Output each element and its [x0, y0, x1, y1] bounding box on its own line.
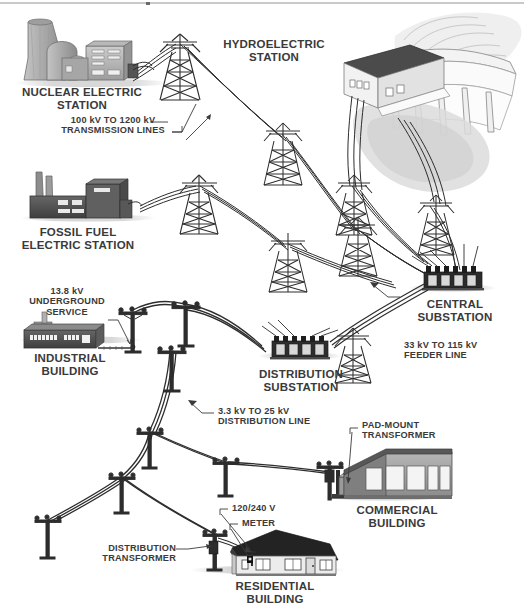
label-transmission-lines: 100 kV TO 1200 kV TRANSMISSION LINES: [52, 115, 174, 136]
label-pad-mount-transformer: PAD-MOUNT TRANSFORMER: [362, 420, 492, 441]
label-service-voltage: 120/240 V: [232, 503, 302, 513]
distribution-poles-upper: [119, 301, 200, 392]
label-industrial-building: INDUSTRIAL BUILDING: [10, 352, 130, 378]
fossil-fuel-electric-station: [30, 172, 142, 218]
hydroelectric-dam: [344, 13, 521, 192]
label-fossil-fuel-station: FOSSIL FUEL ELECTRIC STATION: [6, 226, 150, 252]
label-central-substation: CENTRAL SUBSTATION: [394, 298, 516, 324]
label-feeder-line: 33 kV TO 115 kV FEEDER LINE: [404, 340, 522, 361]
label-nuclear-station: NUCLEAR ELECTRIC STATION: [4, 86, 160, 112]
label-underground-service: 13.8 kV UNDERGROUND SERVICE: [22, 286, 112, 317]
label-meter: METER: [242, 518, 302, 528]
label-commercial-building: COMMERCIAL BUILDING: [330, 504, 464, 530]
distribution-substation: [262, 320, 338, 359]
label-distribution-substation: DISTRIBUTION SUBSTATION: [234, 368, 368, 394]
industrial-building: [24, 312, 135, 350]
nuclear-electric-station: [24, 19, 154, 80]
diagram-canvas: NUCLEAR ELECTRIC STATION HYDROELECTRIC S…: [0, 0, 524, 611]
label-residential-building: RESIDENTIAL BUILDING: [208, 580, 342, 606]
label-hydroelectric-station: HYDROELECTRIC STATION: [206, 38, 342, 64]
label-distribution-transformer: DISTRIBUTION TRANSFORMER: [66, 543, 176, 564]
label-distribution-line: 3.3 kV TO 25 kV DISTRIBUTION LINE: [218, 406, 336, 427]
